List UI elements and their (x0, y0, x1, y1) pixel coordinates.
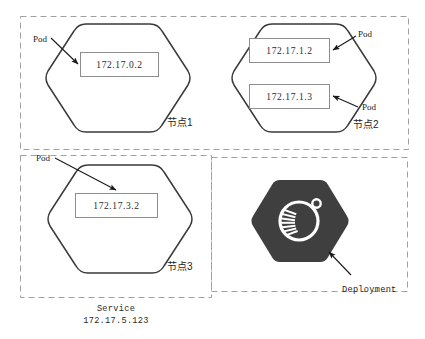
node-2[interactable]: 172.17.1.2 172.17.1.3 Pod Pod 节点2 (232, 24, 379, 132)
deployment-hexagon-icon[interactable] (252, 180, 349, 262)
node-3[interactable]: 172.17.3.2 Pod 节点3 (36, 153, 193, 273)
pod-callout-label: Pod (358, 29, 373, 39)
diagram-canvas: 172.17.0.2 Pod 节点1 172.17.1.2 172.17.1.3… (0, 0, 425, 339)
service-label: Service (97, 304, 135, 314)
deployment-group[interactable]: Deployment (252, 180, 397, 295)
pod-callout-label: Pod (33, 34, 48, 44)
deployment-knob-icon (312, 199, 320, 207)
node-2-label: 节点2 (353, 119, 379, 130)
node-1[interactable]: 172.17.0.2 Pod 节点1 (33, 24, 193, 132)
service-dashed-region (21, 156, 212, 298)
service-ip-label: 172.17.5.123 (83, 316, 149, 326)
deployment-label: Deployment (342, 285, 397, 295)
pod-ip-label: 172.17.1.2 (266, 46, 312, 56)
pod-callout-arrow (55, 158, 116, 190)
node-1-hexagon (46, 24, 190, 132)
service-label-group: Service 172.17.5.123 (83, 304, 149, 326)
clipped-title-strip (70, 0, 360, 5)
pod-callout-label: Pod (36, 153, 51, 163)
node-3-hexagon (48, 165, 192, 273)
deployment-callout-arrow (329, 252, 351, 275)
pod-callout-label: Pod (362, 102, 377, 112)
kubernetes-architecture-diagram: 172.17.0.2 Pod 节点1 172.17.1.2 172.17.1.3… (0, 0, 425, 339)
pod-ip-label: 172.17.1.3 (266, 92, 312, 102)
pod-ip-label: 172.17.3.2 (93, 201, 139, 211)
node-3-label: 节点3 (167, 261, 193, 272)
pod-callout-arrow (333, 96, 358, 107)
pod-ip-label: 172.17.0.2 (96, 60, 142, 70)
node-1-label: 节点1 (167, 117, 193, 128)
pod-callout-arrow (333, 36, 356, 50)
